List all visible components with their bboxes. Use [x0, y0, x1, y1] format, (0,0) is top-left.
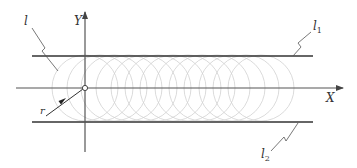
origin-point: [82, 85, 87, 90]
label-y-axis: Y: [74, 15, 82, 27]
label-l2-sub: 2: [265, 154, 270, 163]
label-x-axis: X: [326, 92, 335, 104]
label-l1: l1: [313, 20, 322, 35]
leader-l2: [271, 123, 298, 151]
label-r: r: [40, 106, 45, 116]
leader-l: [32, 28, 58, 71]
diagram-canvas: l Y l1 X r l2: [0, 0, 357, 168]
leader-l1: [293, 32, 311, 56]
label-l1-sub: 1: [317, 26, 322, 35]
diagram-svg: [0, 0, 357, 168]
label-l: l: [24, 15, 28, 27]
label-l2: l2: [261, 148, 270, 163]
